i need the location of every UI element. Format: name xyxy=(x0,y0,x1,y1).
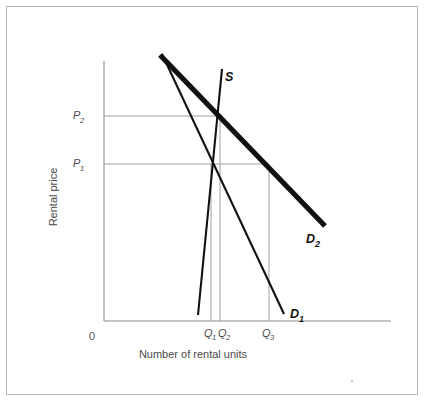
y-tick-p1-sub: 1 xyxy=(80,164,84,173)
origin-label: 0 xyxy=(89,330,95,342)
x-axis-title: Number of rental units xyxy=(139,348,248,360)
demand-curve-d1 xyxy=(162,54,284,314)
d1-curve-label-sub: 1 xyxy=(299,314,304,324)
x-tick-q1-sub: 1 xyxy=(212,333,216,342)
corner-mark xyxy=(351,380,353,382)
y-tick-labels-group: P 2 P 1 xyxy=(73,109,85,173)
x-tick-q3-sub: 3 xyxy=(270,333,275,342)
axes-group xyxy=(104,61,391,321)
supply-curve-label: S xyxy=(225,70,234,84)
d2-curve-label-sub: 2 xyxy=(314,239,320,249)
d2-curve-label-base: D xyxy=(306,232,315,246)
d1-curve-label-base: D xyxy=(290,307,299,321)
curves-group xyxy=(160,54,325,315)
figure-frame: S D 1 D 2 P 2 P 1 Q 1 Q 2 Q 3 0 Number o… xyxy=(6,6,418,395)
supply-demand-chart: S D 1 D 2 P 2 P 1 Q 1 Q 2 Q 3 0 Number o… xyxy=(7,7,417,394)
curve-labels-group: S D 1 D 2 xyxy=(225,70,320,324)
y-axis-title: Rental price xyxy=(47,168,59,227)
x-tick-labels-group: Q 1 Q 2 Q 3 xyxy=(204,327,275,342)
x-tick-q2-sub: 2 xyxy=(225,333,231,342)
guide-lines-group xyxy=(104,116,269,321)
y-tick-p2-sub: 2 xyxy=(79,116,85,125)
demand-curve-d2 xyxy=(160,55,325,226)
